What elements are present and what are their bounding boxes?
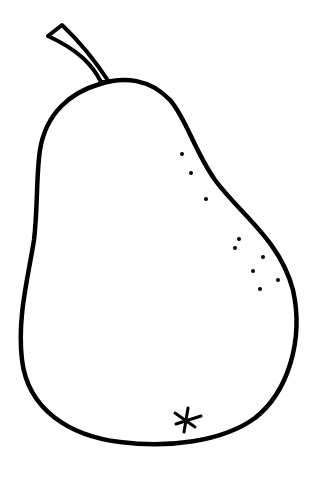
stem-icon xyxy=(48,25,109,82)
pear-illustration xyxy=(0,0,324,481)
blossom-asterisk-icon xyxy=(175,408,201,432)
speckle-dots xyxy=(180,152,280,291)
pear-body-outline xyxy=(21,80,297,444)
pear-drawing xyxy=(0,0,324,481)
